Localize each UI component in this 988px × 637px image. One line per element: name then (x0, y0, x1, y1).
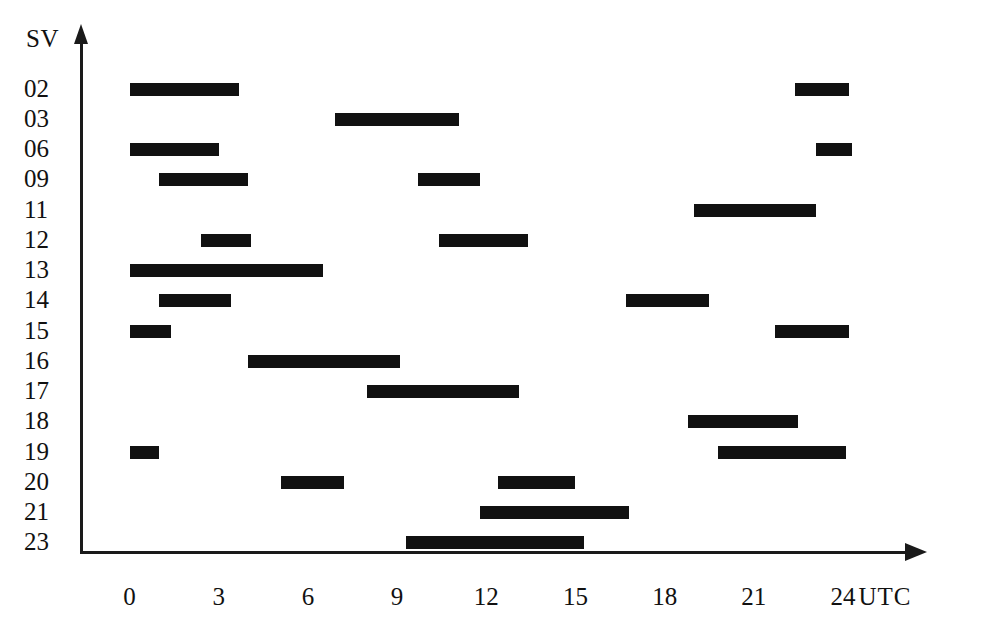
visibility-bar (406, 536, 584, 549)
x-axis-tick-label: 6 (278, 583, 338, 610)
visibility-bar (626, 294, 709, 307)
visibility-bar (281, 476, 343, 489)
visibility-bar (367, 385, 519, 398)
satellite-visibility-chart: SV 02030609111213141516171819202123 0369… (0, 0, 988, 637)
visibility-bar (498, 476, 575, 489)
visibility-bar (248, 355, 400, 368)
visibility-bar (439, 234, 528, 247)
visibility-bar (159, 173, 248, 186)
visibility-bar (418, 173, 480, 186)
x-axis-tick-label: 18 (635, 583, 695, 610)
visibility-bar (159, 294, 230, 307)
x-axis-tick-label: 9 (367, 583, 427, 610)
x-axis-tick-label: 3 (189, 583, 249, 610)
x-axis-unit-label: UTC (840, 583, 930, 610)
x-axis-tick-label: 15 (545, 583, 605, 610)
visibility-bar (130, 325, 172, 338)
visibility-bar (130, 143, 219, 156)
x-axis-tick-label: 21 (724, 583, 784, 610)
x-axis-tick-label: 0 (100, 583, 160, 610)
x-axis-tick-label: 12 (456, 583, 516, 610)
visibility-bar (130, 264, 323, 277)
visibility-bar (201, 234, 252, 247)
visibility-bar (795, 83, 849, 96)
visibility-bar (480, 506, 629, 519)
visibility-bar (718, 446, 846, 459)
visibility-bar (130, 446, 160, 459)
visibility-bar (816, 143, 852, 156)
visibility-bar (335, 113, 460, 126)
visibility-bar (694, 204, 816, 217)
visibility-bar (688, 415, 798, 428)
visibility-bar (130, 83, 240, 96)
plot-area (0, 0, 988, 637)
visibility-bar (775, 325, 849, 338)
